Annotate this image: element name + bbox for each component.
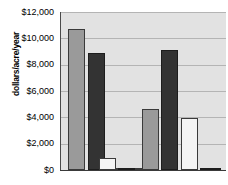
y-tick-label: $0 [0, 166, 54, 175]
bar [142, 109, 159, 170]
y-tick-label: $10,000 [0, 34, 54, 43]
plot-area [60, 12, 226, 171]
y-tick-label: $12,000 [0, 8, 54, 17]
y-tick-label: $8,000 [0, 60, 54, 69]
bars-layer [61, 12, 226, 170]
y-tick-label: $2,000 [0, 139, 54, 148]
bar [99, 158, 116, 170]
y-tick-label: $6,000 [0, 87, 54, 96]
bar [88, 53, 105, 170]
bar [161, 50, 178, 170]
bar [181, 118, 198, 170]
bar-chart: dollars/acre/year $0$2,000$4,000$6,000$8… [0, 0, 228, 185]
bar [68, 29, 85, 170]
y-axis-tick-labels: $0$2,000$4,000$6,000$8,000$10,000$12,000 [0, 0, 57, 185]
x-axis-baseline [60, 170, 226, 171]
y-tick-label: $4,000 [0, 113, 54, 122]
